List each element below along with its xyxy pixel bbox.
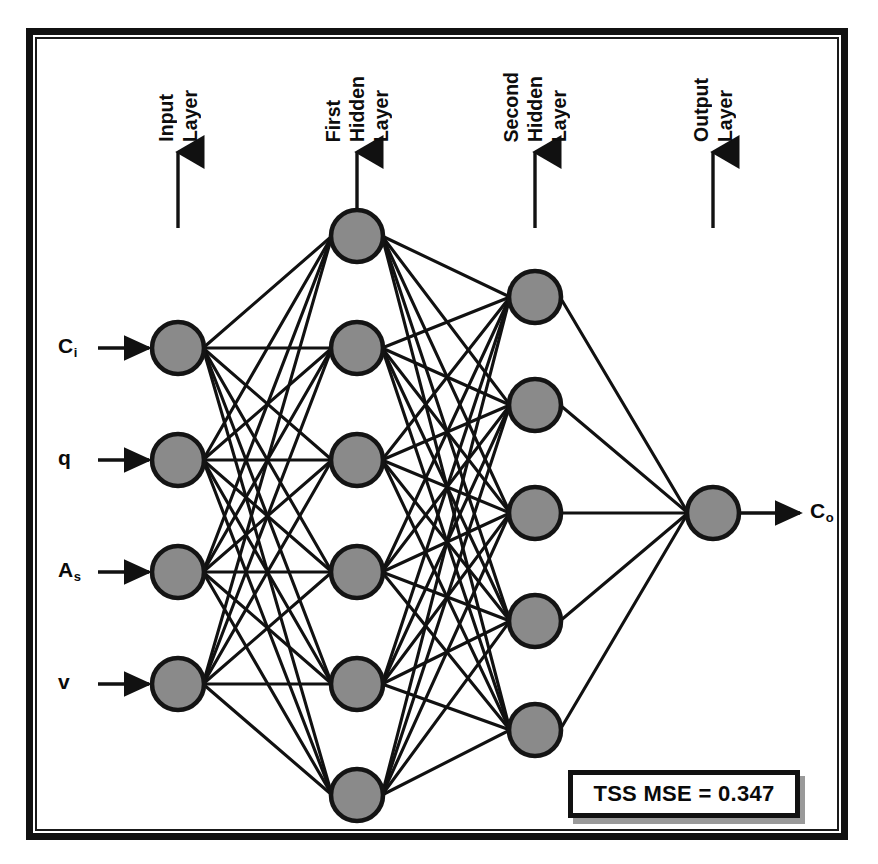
neuron-node: [152, 546, 204, 598]
variable-symbol: C: [810, 499, 825, 522]
caption-line: Layer: [548, 90, 572, 142]
neuron-node: [331, 210, 383, 262]
caption-line: Layer: [179, 90, 203, 142]
connection-edge: [203, 684, 332, 795]
input-label-As: As: [58, 558, 80, 582]
diagram-canvas: InputLayer FirstHiddenLayer SecondHidden…: [0, 0, 878, 864]
layer-caption-arrows: [178, 152, 713, 228]
input-label-Ci: Ci: [58, 334, 77, 358]
neuron-node: [152, 322, 204, 374]
neuron-node: [509, 379, 561, 431]
edges-input-to-first-hidden: [203, 236, 332, 795]
neuron-node: [331, 322, 383, 374]
network-graphic: [0, 0, 878, 864]
layer-caption-first-hidden: FirstHiddenLayer: [322, 52, 394, 142]
caption-line: Hidden: [346, 76, 370, 142]
connection-edge: [203, 236, 332, 572]
neuron-node: [331, 434, 383, 486]
caption-line: Second: [500, 72, 524, 142]
variable-subscript: s: [74, 569, 81, 584]
neuron-node: [687, 487, 739, 539]
neuron-node: [331, 546, 383, 598]
variable-subscript: i: [74, 345, 78, 360]
mse-annotation-box: TSS MSE = 0.347: [568, 770, 800, 818]
connection-edge: [560, 405, 688, 513]
layer-caption-second-hidden: SecondHiddenLayer: [500, 52, 572, 142]
connection-edge: [560, 513, 688, 730]
caption-line: Layer: [714, 90, 738, 142]
connection-edge: [203, 236, 332, 348]
caption-line: Output: [690, 78, 714, 142]
neuron-node: [509, 271, 561, 323]
neuron-node: [331, 658, 383, 710]
input-label-v: v: [58, 670, 70, 694]
edges-first-hidden-to-second-hidden: [382, 236, 510, 795]
variable-symbol: A: [58, 558, 73, 581]
network-nodes: [152, 210, 739, 821]
neuron-node: [152, 434, 204, 486]
variable-subscript: o: [826, 510, 834, 525]
neuron-node: [509, 704, 561, 756]
layer-caption-input: InputLayer: [155, 52, 203, 142]
neuron-node: [509, 487, 561, 539]
edges-second-hidden-to-output: [560, 297, 688, 730]
connection-edge: [560, 513, 688, 621]
output-label-Co: Co: [810, 499, 833, 523]
connection-edge: [382, 405, 510, 795]
caption-line: First: [322, 100, 346, 142]
neuron-node: [509, 595, 561, 647]
variable-symbol: q: [58, 446, 71, 469]
caption-line: Hidden: [524, 76, 548, 142]
variable-symbol: C: [58, 334, 73, 357]
variable-symbol: v: [58, 670, 70, 693]
input-label-q: q: [58, 446, 71, 470]
neuron-node: [152, 658, 204, 710]
neuron-node: [331, 769, 383, 821]
caption-line: Input: [155, 94, 179, 142]
mse-label: TSS MSE = 0.347: [593, 781, 774, 807]
connection-edge: [560, 297, 688, 513]
layer-caption-output: OutputLayer: [690, 52, 738, 142]
caption-line: Layer: [370, 90, 394, 142]
connection-edge: [382, 236, 510, 297]
